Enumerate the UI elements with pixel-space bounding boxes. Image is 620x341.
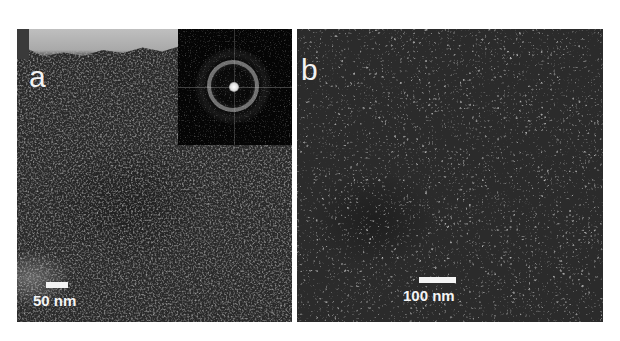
- micrograph-panel-a: a 50 nm: [17, 29, 292, 322]
- micrograph-panel-b: b 100 nm: [297, 29, 603, 322]
- panel-label-b: b: [301, 55, 318, 85]
- scale-bar-b: [419, 277, 456, 283]
- panel-label-a: a: [29, 62, 46, 92]
- fft-inset: [178, 29, 292, 145]
- scale-bar-label-a: 50 nm: [33, 293, 76, 309]
- scale-bar-label-b: 100 nm: [403, 288, 455, 304]
- specimen-edge-left: [17, 29, 29, 59]
- scale-bar-a: [46, 282, 68, 288]
- fft-center-spot: [229, 82, 239, 92]
